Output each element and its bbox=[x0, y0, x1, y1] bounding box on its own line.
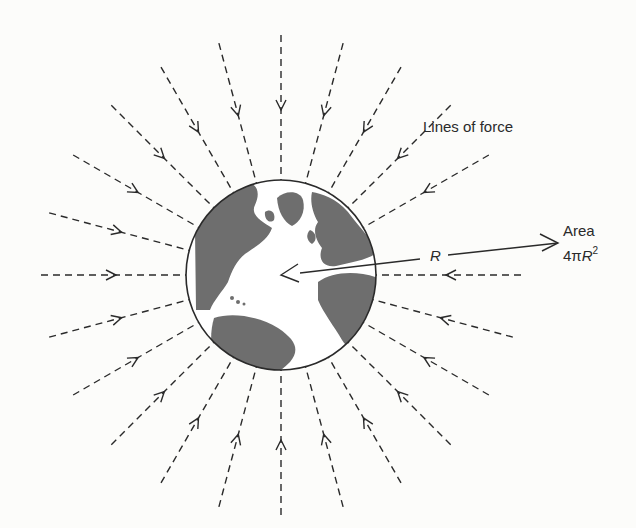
field-line bbox=[111, 105, 214, 208]
arrowhead-icon bbox=[424, 358, 435, 367]
field-line bbox=[306, 367, 344, 507]
field-line bbox=[111, 342, 214, 445]
gravity-field-diagram bbox=[0, 0, 636, 528]
area-title: Area bbox=[563, 221, 598, 241]
field-line bbox=[49, 213, 189, 251]
field-line bbox=[306, 43, 344, 183]
radius-label: R bbox=[430, 247, 441, 264]
arrowhead-icon bbox=[540, 234, 558, 251]
arrowhead-icon bbox=[127, 183, 138, 192]
field-line bbox=[329, 67, 402, 193]
field-line bbox=[73, 323, 199, 396]
arrowhead-icon bbox=[364, 418, 373, 429]
field-line bbox=[219, 367, 257, 507]
field-line bbox=[373, 300, 513, 338]
area-label: Area 4πR2 bbox=[563, 221, 598, 266]
lines-of-force-label: Lines of force bbox=[423, 118, 513, 135]
area-formula: 4πR2 bbox=[563, 241, 598, 266]
field-line bbox=[363, 323, 489, 396]
field-line bbox=[363, 155, 489, 228]
arrowhead-icon bbox=[364, 121, 373, 132]
field-line bbox=[161, 357, 234, 483]
arrowhead-icon bbox=[424, 183, 435, 192]
arrowhead-icon bbox=[189, 418, 198, 429]
field-line bbox=[329, 357, 402, 483]
field-line bbox=[219, 43, 257, 183]
arrowhead-icon bbox=[189, 121, 198, 132]
field-line bbox=[73, 155, 199, 228]
field-line bbox=[348, 342, 451, 445]
earth-globe bbox=[186, 180, 378, 382]
field-line bbox=[49, 300, 189, 338]
field-line bbox=[161, 67, 234, 193]
arrowhead-icon bbox=[127, 358, 138, 367]
